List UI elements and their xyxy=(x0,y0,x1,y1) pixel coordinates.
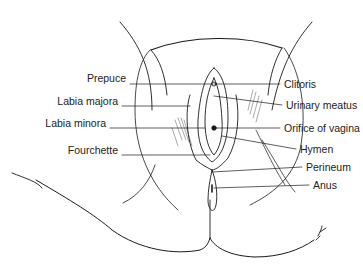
shading xyxy=(172,90,262,146)
label-clitoris: Clitoris xyxy=(284,78,316,90)
anatomical-drawing xyxy=(0,0,363,268)
label-labia-minora: Labia minora xyxy=(45,117,106,129)
label-urinary-meatus: Urinary meatus xyxy=(286,99,357,111)
label-perineum: Perineum xyxy=(306,161,351,173)
label-orifice-of-vagina: Orifice of vagina xyxy=(284,122,360,134)
label-hymen: Hymen xyxy=(300,143,333,155)
body-outline xyxy=(12,22,314,257)
vulva xyxy=(187,68,238,210)
label-labia-majora: Labia majora xyxy=(57,95,118,107)
leader-lines xyxy=(110,84,309,188)
label-anus: Anus xyxy=(313,179,337,191)
artist-signature xyxy=(316,226,326,240)
label-fourchette: Fourchette xyxy=(68,144,118,156)
label-prepuce: Prepuce xyxy=(87,72,126,84)
